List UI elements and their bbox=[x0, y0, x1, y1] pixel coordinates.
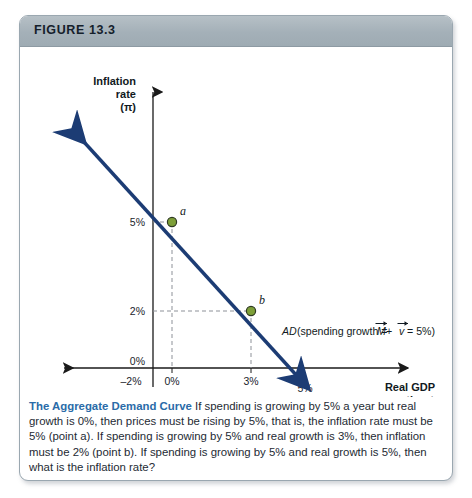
x-axis-label-line2: growth rate bbox=[380, 394, 440, 397]
data-point-b-label: b bbox=[259, 293, 265, 307]
ad-curve-label-text-2: = 5%) bbox=[407, 325, 435, 337]
y-tick-label-2: 2% bbox=[130, 305, 145, 317]
y-axis-label-line3: (π) bbox=[120, 101, 136, 113]
y-tick-label-5: 5% bbox=[130, 216, 145, 228]
y-axis-label-line1: Inflation bbox=[93, 75, 136, 87]
ad-curve-label-group: AD (spending growth = M + v = 5%) bbox=[281, 321, 435, 337]
data-point-b bbox=[246, 306, 255, 315]
x-axis-label-line1: Real GDP bbox=[385, 381, 435, 393]
figure-caption-title: The Aggregate Demand Curve bbox=[29, 400, 192, 412]
figure-caption: The Aggregate Demand Curve If spending i… bbox=[29, 399, 439, 475]
data-point-a bbox=[167, 217, 176, 226]
aggregate-demand-chart: Inflation rate (π) Real GDP growth rate … bbox=[20, 47, 453, 397]
ad-curve-line bbox=[84, 142, 308, 388]
ad-curve-label-plus: + bbox=[386, 325, 392, 337]
x-tick-label-minus2: –2% bbox=[120, 375, 141, 387]
ad-curve-label-text-1: (spending growth = bbox=[297, 325, 387, 337]
x-tick-label-0: 0% bbox=[164, 375, 179, 387]
figure-header-bar: FIGURE 13.3 bbox=[20, 16, 452, 47]
ad-curve-label-velocity-symbol: v bbox=[399, 325, 405, 337]
figure-card: FIGURE 13.3 bbox=[19, 15, 453, 481]
figure-number-label: FIGURE 13.3 bbox=[34, 23, 116, 37]
data-point-a-label: a bbox=[180, 204, 186, 218]
x-tick-label-3: 3% bbox=[243, 375, 258, 387]
y-axis-label-line2: rate bbox=[116, 88, 136, 100]
ad-curve-label-money-symbol: M bbox=[377, 325, 386, 337]
y-tick-label-0: 0% bbox=[130, 355, 145, 367]
ad-curve-label-name: AD bbox=[281, 325, 297, 337]
chart-plot-area: Inflation rate (π) Real GDP growth rate … bbox=[20, 47, 453, 397]
